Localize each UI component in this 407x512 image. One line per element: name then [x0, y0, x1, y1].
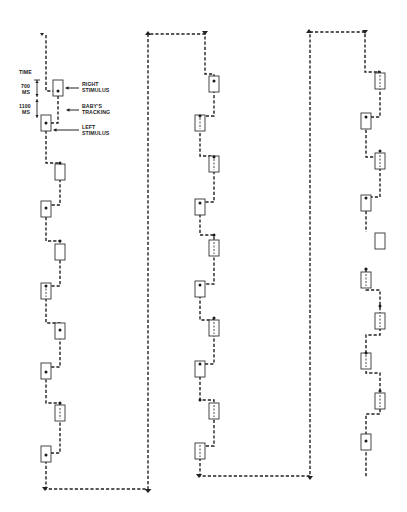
- right-stimulus-box: [209, 76, 219, 92]
- left-stimulus-label-2: STIMULUS: [82, 130, 110, 136]
- right-stimulus-box: [375, 233, 385, 249]
- time-bracket-icon: [34, 80, 40, 118]
- tracking-diagram: TIME 700 MS 1100 MS RIGHT STIMULUS BABY'…: [0, 0, 407, 512]
- column-3-stimuli: [361, 71, 385, 451]
- left-stimulus-box: [361, 113, 371, 129]
- arrow-down-icon: [307, 476, 313, 480]
- column-2-stimuli: [195, 76, 219, 459]
- interval-700-unit: MS: [22, 89, 30, 95]
- right-stimulus-box: [55, 164, 65, 180]
- right-stimulus-box: [55, 244, 65, 260]
- arrow-down-icon: [145, 489, 152, 493]
- interval-1100-unit: MS: [22, 109, 30, 115]
- tracking-path: [40, 29, 380, 493]
- arrow-up-icon: [145, 31, 151, 35]
- right-stimulus-label-2: STIMULUS: [82, 87, 110, 93]
- left-stimulus-box: [195, 281, 205, 297]
- arrow-up-icon: [306, 29, 312, 33]
- legend: TIME 700 MS 1100 MS RIGHT STIMULUS BABY'…: [19, 69, 110, 136]
- right-stimulus-box: [53, 80, 63, 96]
- column-1-stimuli: [41, 80, 65, 462]
- babys-tracking-label-2: TRACKING: [82, 109, 110, 115]
- start-marker-icon: [40, 33, 44, 36]
- left-stimulus-box: [195, 199, 205, 215]
- time-label: TIME: [19, 69, 32, 75]
